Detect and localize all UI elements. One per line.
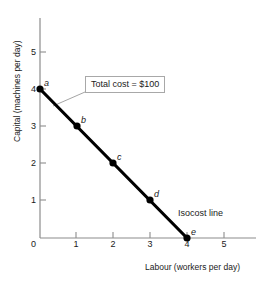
y-tick-label-1: 1 bbox=[24, 195, 36, 205]
data-point-d bbox=[146, 196, 153, 203]
point-label-a: a bbox=[44, 78, 49, 88]
callout-leader-line bbox=[53, 92, 85, 106]
x-axis-title: Labour (workers per day) bbox=[145, 262, 240, 272]
point-label-d: d bbox=[154, 189, 159, 199]
y-tick-label-0: 0 bbox=[24, 239, 36, 249]
x-tick-label-1: 1 bbox=[69, 239, 83, 249]
x-tick-label-5: 5 bbox=[217, 239, 231, 249]
point-label-c: c bbox=[117, 152, 122, 162]
data-point-b bbox=[73, 122, 80, 129]
y-tick-label-3: 3 bbox=[24, 121, 36, 131]
point-label-b: b bbox=[81, 115, 86, 125]
total-cost-callout: Total cost = $100 bbox=[85, 76, 165, 93]
y-tick-label-5: 5 bbox=[24, 47, 36, 57]
y-tick-label-4: 4 bbox=[24, 84, 36, 94]
chart-canvas bbox=[0, 0, 279, 286]
x-axis-ticks bbox=[76, 232, 224, 238]
x-tick-label-4: 4 bbox=[180, 239, 194, 249]
point-label-e: e bbox=[191, 227, 196, 237]
y-tick-label-2: 2 bbox=[24, 158, 36, 168]
isocost-line-annotation: Isocost line bbox=[178, 208, 223, 218]
y-axis-title: Capital (machines per day) bbox=[12, 40, 22, 142]
y-axis-ticks bbox=[40, 52, 46, 200]
data-point-a bbox=[36, 85, 43, 92]
isocost-chart-figure: 5 4 3 2 1 0 1 2 3 4 5 Capital (machines … bbox=[0, 0, 279, 286]
x-tick-label-3: 3 bbox=[143, 239, 157, 249]
x-tick-label-2: 2 bbox=[106, 239, 120, 249]
data-point-c bbox=[109, 159, 116, 166]
